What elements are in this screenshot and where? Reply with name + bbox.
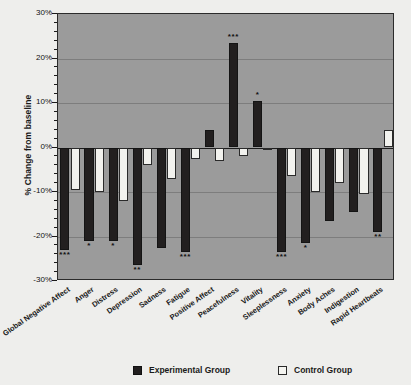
bar-experimental: [84, 148, 93, 242]
y-axis-tick-label: -20%: [12, 231, 52, 240]
bar-control: [71, 148, 80, 190]
significance-marker: *: [79, 242, 98, 250]
bar-control: [311, 148, 320, 193]
significance-marker: **: [368, 233, 387, 241]
bar-control: [95, 148, 104, 193]
bar-experimental: [277, 148, 286, 253]
gridline: [58, 103, 393, 104]
bar-experimental: [60, 148, 69, 250]
bar-control: [167, 148, 176, 179]
outlined-white-square-icon: [278, 366, 287, 375]
y-axis-tick-label: 10%: [12, 97, 52, 106]
bar-experimental: [157, 148, 166, 248]
bar-experimental: [325, 148, 334, 221]
bar-experimental: [229, 43, 238, 148]
bar-experimental: [181, 148, 190, 253]
y-axis-tick-label: 20%: [12, 53, 52, 62]
significance-marker: **: [128, 266, 147, 274]
bar-control: [384, 130, 393, 148]
plot-area: ********************: [57, 13, 394, 280]
bar-control: [143, 148, 152, 166]
significance-marker: *: [104, 242, 123, 250]
gridline: [58, 59, 393, 60]
bar-experimental: [349, 148, 358, 213]
legend-label-control: Control Group: [294, 365, 352, 375]
legend-item-experimental: Experimental Group: [133, 365, 230, 375]
y-axis-tick-label: -30%: [12, 275, 52, 284]
bar-control: [335, 148, 344, 184]
legend-label-experimental: Experimental Group: [149, 365, 230, 375]
significance-marker: ***: [176, 253, 195, 261]
bar-control: [287, 148, 296, 177]
bar-control: [191, 148, 200, 159]
y-axis-tick-label: 0%: [12, 142, 52, 151]
bar-control: [119, 148, 128, 201]
significance-marker: *: [248, 91, 267, 99]
bar-control: [239, 148, 248, 157]
bar-experimental: [133, 148, 142, 266]
y-axis-tick: [52, 280, 57, 281]
chart-legend: Experimental Group Control Group: [0, 362, 411, 380]
significance-marker: ***: [272, 253, 291, 261]
legend-item-control: Control Group: [278, 365, 352, 375]
bar-experimental: [109, 148, 118, 242]
significance-marker: ***: [57, 251, 75, 259]
significance-marker: *: [296, 244, 315, 252]
filled-black-square-icon: [133, 366, 142, 375]
significance-marker: ***: [224, 33, 243, 41]
bar-experimental: [301, 148, 310, 244]
y-axis-tick-label: 30%: [12, 8, 52, 17]
bar-control: [359, 148, 368, 195]
chart-figure: % Change from baseline 30%20%10%0%-10%-2…: [0, 0, 411, 385]
y-axis-tick-label: -10%: [12, 186, 52, 195]
bar-experimental: [253, 101, 262, 148]
bar-control: [263, 148, 272, 150]
bar-experimental: [373, 148, 382, 233]
bar-control: [215, 148, 224, 161]
bar-experimental: [205, 130, 214, 148]
